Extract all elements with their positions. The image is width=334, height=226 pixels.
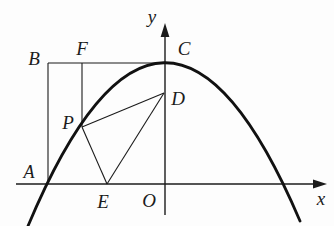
point-label-f: F xyxy=(76,39,88,58)
point-label-d: D xyxy=(171,89,185,108)
x-axis-label: x xyxy=(317,189,325,208)
parabola-curve xyxy=(28,63,300,226)
segment-p-e xyxy=(82,127,107,184)
y-axis-arrow-icon xyxy=(161,23,170,37)
point-label-e: E xyxy=(97,192,109,211)
segment-e-d xyxy=(107,93,164,184)
segment-p-d xyxy=(82,93,164,127)
point-label-c: C xyxy=(178,39,191,58)
parabola-geometry-figure: y x B F C D P A E O xyxy=(0,0,334,226)
point-label-a: A xyxy=(24,163,35,181)
point-label-b: B xyxy=(28,49,40,68)
point-label-p: P xyxy=(62,113,74,132)
y-axis-label: y xyxy=(148,7,156,26)
origin-label: O xyxy=(142,191,156,210)
figure-canvas xyxy=(0,0,334,226)
